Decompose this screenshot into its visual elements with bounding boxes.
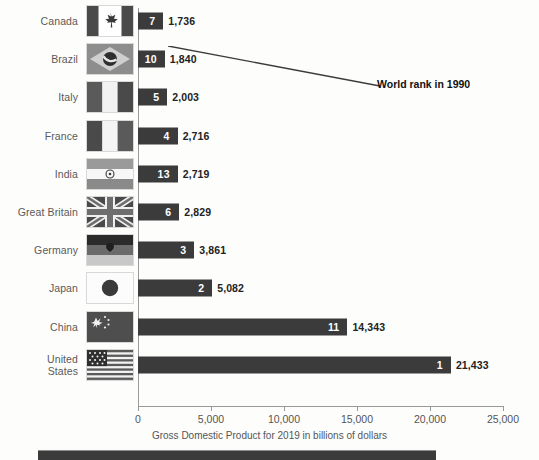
chart-row: France42,716 (0, 117, 539, 155)
x-axis-title: Gross Domestic Product for 2019 in billi… (0, 430, 539, 441)
value-label: 5,082 (217, 282, 244, 294)
cut-off-footer-bar (38, 450, 436, 460)
x-axis-tick-label: 15,000 (341, 413, 373, 425)
chart-row: Canada71,736 (0, 2, 539, 40)
x-axis-tick-label: 25,000 (487, 413, 519, 425)
rank-badge: 4 (164, 130, 170, 142)
flag-brazil-icon (86, 43, 134, 75)
x-axis-tick (211, 406, 212, 411)
rank-badge: 1 (437, 359, 443, 371)
chart-row: Brazil101,840 (0, 40, 539, 78)
rank-badge: 3 (180, 244, 186, 256)
country-label: Great Britain (0, 206, 78, 218)
chart-row: China1114,343 (0, 308, 539, 346)
value-label: 2,719 (183, 168, 210, 180)
flag-germany-icon (86, 234, 134, 266)
x-axis-tick (284, 406, 285, 411)
annotation-world-rank-1990: World rank in 1990 (377, 78, 470, 90)
value-bar (138, 127, 178, 144)
rank-badge: 7 (149, 15, 155, 27)
x-axis-tick-label: 5,000 (198, 413, 224, 425)
value-label: 2,003 (172, 91, 199, 103)
value-bar (138, 356, 451, 373)
flag-great-britain-icon (86, 196, 134, 228)
x-axis-tick (138, 406, 139, 411)
country-label-line1: United (0, 353, 78, 365)
country-label: Brazil (0, 53, 78, 65)
country-label: Italy (0, 91, 78, 103)
value-label: 2,716 (183, 130, 210, 142)
x-axis-tick (357, 406, 358, 411)
rank-badge: 13 (158, 168, 170, 180)
country-label: Canada (0, 15, 78, 27)
rank-badge: 10 (145, 53, 157, 65)
country-label: Germany (0, 244, 78, 256)
country-label: France (0, 130, 78, 142)
rank-badge: 5 (153, 91, 159, 103)
value-label: 3,861 (199, 244, 226, 256)
x-axis-tick-label: 10,000 (268, 413, 300, 425)
chart-row: India132,719 (0, 155, 539, 193)
country-label: India (0, 168, 78, 180)
chart-row: UnitedStates121,433 (0, 346, 539, 384)
chart-row: Great Britain62,829 (0, 193, 539, 231)
value-label: 1,736 (168, 15, 195, 27)
rank-badge: 6 (165, 206, 171, 218)
country-label: China (0, 321, 78, 333)
rank-badge: 11 (328, 321, 340, 333)
value-bar (138, 318, 347, 335)
value-label: 21,433 (456, 359, 489, 371)
x-axis-tick-label: 20,000 (414, 413, 446, 425)
flag-united-states-icon (86, 349, 134, 381)
flag-italy-icon (86, 81, 134, 113)
x-axis-line (138, 406, 503, 407)
chart-row: Germany33,861 (0, 231, 539, 269)
chart-row: Japan25,082 (0, 269, 539, 307)
value-label: 1,840 (170, 53, 197, 65)
country-label: UnitedStates (0, 353, 78, 377)
value-bar (138, 204, 179, 221)
flag-canada-icon (86, 5, 134, 37)
country-label: Japan (0, 282, 78, 294)
rank-badge: 2 (198, 282, 204, 294)
value-label: 2,829 (184, 206, 211, 218)
x-axis-tick-label: 0 (135, 413, 141, 425)
flag-china-icon (86, 311, 134, 343)
value-label: 14,343 (352, 321, 385, 333)
x-axis-tick (430, 406, 431, 411)
flag-japan-icon (86, 272, 134, 304)
flag-india-icon (86, 158, 134, 190)
flag-france-icon (86, 120, 134, 152)
country-label-line2: States (0, 365, 78, 377)
x-axis-tick (503, 406, 504, 411)
